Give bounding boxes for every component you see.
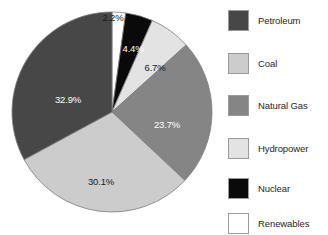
legend-swatch-icon — [228, 53, 249, 74]
legend-swatch-icon — [228, 138, 249, 159]
legend-swatch-icon — [228, 178, 249, 199]
legend-item-renewables[interactable]: Renewables — [228, 212, 309, 234]
pie-slice-group — [12, 12, 212, 212]
pie-svg — [0, 0, 218, 235]
legend-item-natural-gas[interactable]: Natural Gas — [228, 94, 308, 116]
legend-swatch-icon — [228, 95, 249, 116]
legend-item-hydropower[interactable]: Hydropower — [228, 137, 308, 159]
legend-item-label: Renewables — [258, 218, 309, 229]
pie-chart-figure: 2.2%4.4%6.7%23.7%30.1%32.9% PetroleumCoa… — [0, 0, 328, 235]
legend-item-nuclear[interactable]: Nuclear — [228, 177, 290, 199]
legend-item-coal[interactable]: Coal — [228, 52, 277, 74]
legend-item-label: Coal — [258, 58, 277, 69]
legend-item-label: Petroleum — [258, 15, 300, 26]
legend-item-petroleum[interactable]: Petroleum — [228, 9, 300, 31]
chart-legend: PetroleumCoalNatural GasHydropowerNuclea… — [228, 4, 328, 232]
legend-item-label: Natural Gas — [258, 100, 308, 111]
legend-swatch-icon — [228, 213, 249, 234]
pie-chart-plot: 2.2%4.4%6.7%23.7%30.1%32.9% — [0, 0, 218, 235]
legend-item-label: Hydropower — [258, 143, 308, 154]
legend-item-label: Nuclear — [258, 183, 290, 194]
legend-swatch-icon — [228, 10, 249, 31]
